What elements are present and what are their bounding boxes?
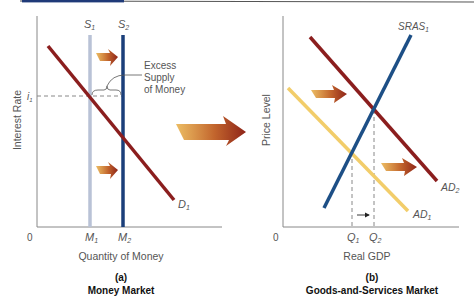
ad2-label: AD2 — [440, 181, 460, 194]
transmission-arrow-icon — [176, 116, 246, 146]
x-axis-label: Quantity of Money — [78, 250, 164, 262]
s2-label: S2 — [118, 18, 129, 31]
caption-title: Money Market — [88, 285, 155, 296]
origin-label: 0 — [27, 232, 33, 243]
m1-label: M1 — [85, 231, 98, 244]
m2-label: M2 — [118, 231, 131, 244]
monetary-policy-figure: S1 S2 D1 i1 Excess Supply of Money 0 M1 … — [0, 0, 474, 297]
s1-label: S1 — [84, 18, 95, 31]
panel-a-money-market: S1 S2 D1 i1 Excess Supply of Money 0 M1 … — [11, 16, 222, 296]
origin-label: 0 — [273, 232, 279, 243]
shift-arrow-icon — [96, 162, 118, 179]
ad1-curve — [288, 88, 408, 211]
i1-label: i1 — [27, 91, 33, 103]
y-axis-label: Interest Rate — [11, 90, 23, 150]
shift-arrow-icon — [381, 158, 417, 176]
ad1-label: AD1 — [412, 208, 432, 221]
caption-letter: (b) — [366, 272, 379, 283]
shift-arrow-icon — [96, 49, 118, 66]
sras-label: SRAS1 — [398, 21, 429, 33]
x-axis-label: Real GDP — [343, 250, 390, 262]
y-axis-label: Price Level — [260, 94, 272, 146]
shift-arrow-icon — [311, 85, 347, 103]
excess-supply-brace — [92, 86, 121, 95]
caption-title: Goods-and-Services Market — [306, 285, 439, 296]
caption-letter: (a) — [115, 272, 127, 283]
annotation-line-2: Supply — [144, 72, 175, 83]
annotation-line-3: of Money — [144, 84, 185, 95]
q2-label: Q2 — [369, 231, 382, 244]
annotation-line-1: Excess — [144, 60, 176, 71]
d1-label: D1 — [178, 198, 190, 211]
top-rule — [20, 0, 474, 2]
panel-b-goods-services-market: SRAS1 AD2 AD1 0 Q1 Q2 Real GDP Price Lev… — [260, 16, 460, 296]
q1-label: Q1 — [347, 231, 360, 244]
sras-curve — [324, 35, 411, 208]
